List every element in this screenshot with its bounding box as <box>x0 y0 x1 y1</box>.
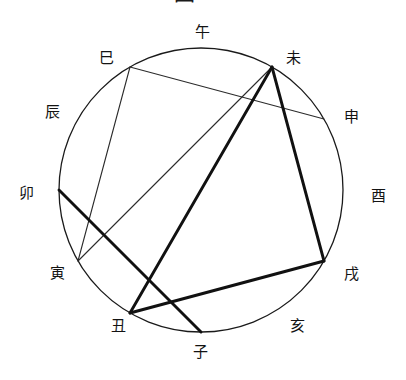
chord-si-shen <box>130 67 324 119</box>
branch-label-wei: 未 <box>286 51 301 66</box>
chord-wei-chou <box>130 67 272 313</box>
branch-label-yin: 寅 <box>50 266 65 281</box>
thick-chord-lines <box>59 67 324 332</box>
branch-label-chou: 丑 <box>111 319 126 334</box>
branch-label-si: 巳 <box>99 51 114 66</box>
diagram-stage: 圖 二 子丑寅卯辰巳午未申酉戌亥 <box>0 0 406 380</box>
branch-label-chen: 辰 <box>45 105 60 120</box>
branch-label-hai: 亥 <box>290 319 305 334</box>
chord-diagram-svg <box>0 0 406 380</box>
chord-wei-xu <box>272 67 324 261</box>
branch-label-mao: 卯 <box>19 186 34 201</box>
chord-chou-xu <box>130 261 324 313</box>
chord-si-yin <box>78 67 130 261</box>
branch-label-zi: 子 <box>193 345 208 360</box>
branch-label-xu: 戌 <box>344 267 359 282</box>
chord-wei-yin <box>78 67 272 261</box>
branch-label-you: 酉 <box>371 189 386 204</box>
branch-label-shen: 申 <box>344 110 359 125</box>
branch-label-wu: 午 <box>195 25 210 40</box>
thin-chord-lines <box>78 67 324 261</box>
